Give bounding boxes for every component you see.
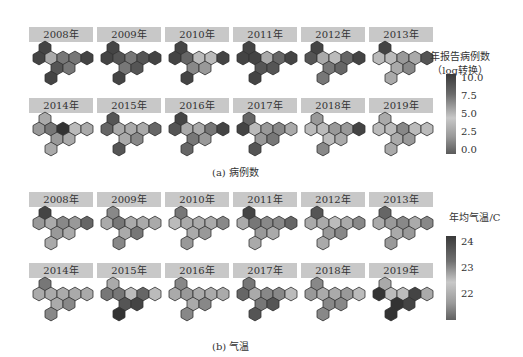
hex-cell — [45, 307, 57, 321]
hex-cell — [33, 122, 45, 136]
hex-cell — [199, 61, 211, 75]
hex-cell — [385, 307, 397, 321]
legend-b-title: 年均气温/C — [435, 209, 515, 224]
hex-cell — [335, 297, 347, 311]
hex-cell — [403, 226, 415, 240]
hex-cell — [237, 122, 249, 136]
temperature-panel-2011年: 2011年 — [233, 192, 297, 260]
temperature-panel-2009年: 2009年 — [97, 192, 161, 260]
hex-cell — [81, 287, 93, 301]
hex-cell — [169, 122, 181, 136]
hex-map — [165, 192, 235, 254]
hex-cell — [267, 61, 279, 75]
temperature-panel-2018年: 2018年 — [301, 263, 365, 331]
hex-cell — [45, 236, 57, 250]
hex-map — [29, 98, 99, 160]
legend-a-subtitle: （log转换） — [410, 62, 510, 77]
hex-cell — [113, 142, 125, 156]
hex-cell — [267, 226, 279, 240]
hex-cell — [421, 216, 433, 230]
cases-panel-2010年: 2010年 — [165, 27, 229, 95]
hex-map — [233, 98, 303, 160]
hex-cell — [113, 71, 125, 85]
hex-map — [165, 263, 235, 325]
caption-temperature: (b) 气温 — [212, 338, 249, 353]
hex-cell — [217, 216, 229, 230]
hex-cell — [45, 71, 57, 85]
hex-cell — [353, 51, 365, 65]
hex-cell — [385, 71, 397, 85]
hex-cell — [33, 51, 45, 65]
hex-cell — [285, 287, 297, 301]
hex-cell — [237, 216, 249, 230]
hex-cell — [33, 216, 45, 230]
hex-cell — [81, 51, 93, 65]
hex-cell — [335, 132, 347, 146]
hex-cell — [403, 132, 415, 146]
hex-map — [233, 27, 303, 89]
hex-map — [97, 27, 167, 89]
hex-cell — [217, 287, 229, 301]
hex-cell — [81, 122, 93, 136]
hex-map — [301, 263, 371, 325]
hex-cell — [113, 307, 125, 321]
tick-temp-23: 23 — [461, 262, 474, 273]
tick-cases-2.5: 2.5 — [461, 126, 477, 137]
hex-cell — [101, 122, 113, 136]
hex-cell — [285, 51, 297, 65]
hex-cell — [181, 236, 193, 250]
hex-cell — [237, 287, 249, 301]
hex-cell — [267, 132, 279, 146]
hex-cell — [317, 71, 329, 85]
hex-map — [233, 192, 303, 254]
hex-cell — [335, 226, 347, 240]
hex-cell — [101, 216, 113, 230]
hex-cell — [421, 287, 433, 301]
hex-cell — [169, 287, 181, 301]
hex-cell — [181, 307, 193, 321]
hex-cell — [33, 287, 45, 301]
hex-cell — [249, 307, 261, 321]
hex-cell — [373, 287, 385, 301]
hex-cell — [199, 132, 211, 146]
hex-cell — [353, 287, 365, 301]
hex-map — [369, 192, 439, 254]
hex-cell — [217, 122, 229, 136]
hex-cell — [267, 297, 279, 311]
cases-panel-2012年: 2012年 — [301, 27, 365, 95]
hex-cell — [373, 122, 385, 136]
temperature-panel-2016年: 2016年 — [165, 263, 229, 331]
cases-panel-2016年: 2016年 — [165, 98, 229, 166]
hex-cell — [149, 216, 161, 230]
tick-cases-0: 0.0 — [461, 144, 477, 155]
hex-cell — [149, 51, 161, 65]
tick-cases-5: 5.0 — [461, 108, 477, 119]
hex-cell — [317, 236, 329, 250]
hex-cell — [249, 236, 261, 250]
hex-cell — [131, 297, 143, 311]
hex-cell — [45, 142, 57, 156]
temperature-panel-2013年: 2013年 — [369, 192, 433, 260]
hex-cell — [63, 61, 75, 75]
hex-cell — [305, 122, 317, 136]
hex-map — [301, 27, 371, 89]
hex-map — [97, 98, 167, 160]
colorbar-temperature — [446, 236, 456, 320]
hex-cell — [385, 142, 397, 156]
hex-map — [97, 192, 167, 254]
hex-cell — [353, 122, 365, 136]
hex-cell — [113, 236, 125, 250]
hex-cell — [305, 216, 317, 230]
hex-cell — [169, 216, 181, 230]
hex-cell — [149, 287, 161, 301]
hex-cell — [217, 51, 229, 65]
hex-map — [97, 263, 167, 325]
hex-cell — [63, 226, 75, 240]
hex-cell — [317, 142, 329, 156]
cases-panel-2008年: 2008年 — [29, 27, 93, 95]
hex-cell — [385, 236, 397, 250]
hex-map — [369, 263, 439, 325]
temperature-panel-2012年: 2012年 — [301, 192, 365, 260]
hex-cell — [403, 297, 415, 311]
hex-cell — [63, 132, 75, 146]
